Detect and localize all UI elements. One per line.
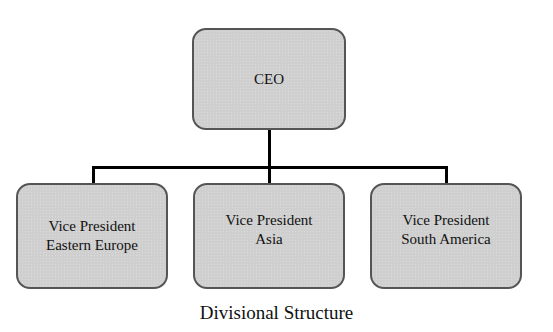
vp-eastern-europe-box: Vice President Eastern Europe: [16, 183, 168, 289]
vp-title: Vice President: [226, 211, 313, 230]
vp-asia-box: Vice President Asia: [193, 183, 345, 289]
ceo-connector: [268, 130, 271, 169]
diagram-caption: Divisional Structure: [0, 302, 553, 324]
vp-region: Asia: [226, 230, 313, 249]
vp-title: Vice President: [46, 217, 138, 236]
connector-south-america: [445, 166, 448, 184]
vp-south-america-box: Vice President South America: [370, 183, 522, 289]
connector-eastern-europe: [92, 166, 95, 184]
ceo-box: CEO: [192, 28, 346, 130]
vp-region: South America: [401, 230, 491, 249]
connector-asia: [268, 166, 271, 184]
vp-title: Vice President: [401, 211, 491, 230]
vp-region: Eastern Europe: [46, 236, 138, 255]
ceo-label: CEO: [254, 70, 284, 89]
